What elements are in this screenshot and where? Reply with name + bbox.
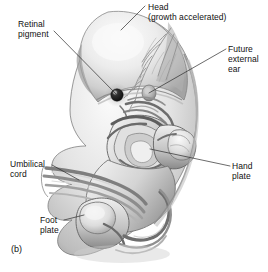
label-umbilical-cord-line1: Umbilical	[10, 159, 45, 169]
label-hand-plate: Hand plate	[232, 161, 253, 181]
embryo-figure: Retinal pigment Head (growth accelerated…	[0, 0, 268, 272]
lower-limb-bud	[76, 198, 129, 249]
label-future-external-ear: Future external ear	[228, 44, 259, 74]
label-hand-plate-line2: plate	[232, 171, 253, 181]
label-retinal-pigment-line2: pigment	[18, 29, 49, 39]
figure-shadow	[74, 245, 170, 263]
label-retinal-pigment-line1: Retinal	[18, 19, 49, 29]
label-future-ear-line1: Future	[228, 44, 259, 54]
label-future-ear-line2: external	[228, 54, 259, 64]
panel-label: (b)	[11, 244, 22, 254]
label-foot-plate: Foot plate	[40, 215, 59, 235]
label-future-ear-line3: ear	[228, 64, 259, 74]
label-foot-plate-line1: Foot	[40, 215, 59, 225]
label-head-line1: Head	[148, 2, 226, 12]
head-highlight	[92, 23, 144, 61]
label-foot-plate-line2: plate	[40, 225, 59, 235]
label-hand-plate-line1: Hand	[232, 161, 253, 171]
label-retinal-pigment: Retinal pigment	[18, 19, 49, 39]
label-head: Head (growth accelerated)	[148, 2, 226, 22]
label-umbilical-cord-line2: cord	[10, 169, 45, 179]
label-umbilical-cord: Umbilical cord	[10, 159, 45, 179]
label-head-line2: (growth accelerated)	[148, 12, 226, 22]
